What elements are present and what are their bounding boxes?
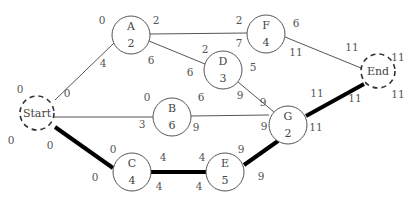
node-label: G: [284, 110, 293, 123]
time-label-g-lf: 11: [309, 121, 322, 133]
time-label-end-ef: 11: [391, 51, 404, 63]
node-duration: 6: [169, 119, 176, 132]
node-f: F4: [247, 15, 285, 53]
time-label-start-es: 0: [17, 83, 24, 95]
time-label-start-ef: 0: [64, 87, 71, 99]
time-label-e-lf: 9: [258, 170, 265, 182]
time-label-c-es: 0: [110, 143, 117, 155]
time-label-a-ls: 4: [100, 57, 107, 69]
nodes-layer: StartA2B6C4D3E5F4G2End: [20, 15, 395, 191]
node-a: A2: [112, 16, 150, 54]
time-label-d-ls: 6: [187, 66, 194, 78]
time-label-b-lf: 9: [193, 121, 200, 133]
node-label: C: [128, 157, 136, 170]
time-label-d-lf: 9: [237, 89, 244, 101]
edge-E-to-G-critical: [244, 141, 278, 165]
time-label-f-ls: 7: [236, 37, 243, 49]
time-label-end-lf: 11: [391, 88, 404, 100]
time-label-b-ls: 3: [139, 118, 146, 130]
edges-layer: [54, 33, 364, 172]
node-e: E5: [206, 153, 244, 191]
time-label-a-es: 0: [99, 14, 106, 26]
time-label-a-ef: 2: [153, 14, 160, 26]
time-label-b-es: 0: [144, 91, 151, 103]
time-label-g-ls: 9: [261, 120, 268, 132]
time-label-end-ls: 11: [348, 92, 361, 104]
time-label-e-ef: 9: [238, 143, 245, 155]
node-end: End: [361, 54, 395, 88]
time-label-e-es: 4: [199, 151, 206, 163]
node-label: End: [367, 65, 389, 78]
time-label-e-ls: 4: [196, 180, 203, 192]
time-label-d-es: 2: [202, 43, 209, 55]
edge-start-to-C-critical: [55, 127, 113, 168]
time-label-d-ef: 5: [250, 61, 257, 73]
node-g: G2: [269, 106, 307, 144]
node-start: Start: [20, 96, 54, 130]
node-duration: 2: [285, 127, 292, 140]
node-duration: 4: [263, 36, 270, 49]
time-label-start-lf: 0: [47, 139, 54, 151]
node-duration: 5: [222, 174, 229, 187]
node-label: A: [126, 20, 136, 33]
critical-path-diagram: StartA2B6C4D3E5F4G2End 00000426276112659…: [0, 0, 411, 203]
time-label-c-ef: 4: [160, 151, 167, 163]
edge-D-to-G: [238, 82, 274, 112]
node-duration: 2: [128, 37, 135, 50]
time-label-f-lf: 11: [289, 46, 302, 58]
time-label-a-lf: 6: [148, 54, 155, 66]
time-label-f-es: 2: [236, 14, 243, 26]
time-label-end-es: 11: [345, 41, 358, 53]
time-label-f-ef: 6: [293, 17, 300, 29]
node-label: D: [219, 55, 228, 68]
time-label-g-ef: 11: [310, 87, 323, 99]
time-label-start-ls: 0: [8, 134, 15, 146]
edge-A-to-D: [149, 41, 205, 64]
edge-value-labels: 0000042627611265903699911111111111100444…: [8, 14, 405, 192]
time-label-c-ls: 0: [92, 171, 99, 183]
time-label-b-ef: 6: [198, 91, 205, 103]
node-label: F: [262, 19, 270, 32]
time-label-g-es: 9: [260, 96, 267, 108]
node-label: E: [221, 157, 229, 170]
node-c: C4: [113, 153, 151, 191]
node-label: B: [168, 102, 176, 115]
node-label: Start: [23, 107, 52, 120]
edge-A-to-F: [150, 33, 247, 34]
node-duration: 3: [220, 72, 227, 85]
node-duration: 4: [129, 174, 136, 187]
edge-B-to-G: [191, 115, 269, 116]
node-d: D3: [204, 51, 242, 89]
node-b: B6: [153, 98, 191, 136]
time-label-c-lf: 4: [156, 180, 163, 192]
